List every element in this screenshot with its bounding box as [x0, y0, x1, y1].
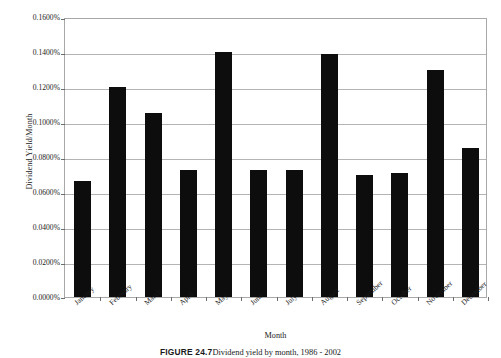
bar: [321, 54, 338, 297]
bar: [109, 87, 126, 297]
x-axis-title: Month: [64, 331, 487, 340]
bar: [462, 148, 479, 297]
bar: [145, 113, 162, 297]
bar: [391, 173, 408, 297]
figure-caption-label: FIGURE 24.7: [160, 347, 212, 357]
bar: [286, 170, 303, 297]
bar: [180, 170, 197, 297]
bar: [250, 170, 267, 297]
y-tick-label: 0.1400%: [12, 49, 60, 57]
x-tick-mark: [488, 297, 489, 301]
y-tick-label: 0.0800%: [12, 154, 60, 162]
y-tick-label: 0.1600%: [12, 14, 60, 22]
bar: [215, 52, 232, 297]
y-tick-label: 0.0600%: [12, 189, 60, 197]
y-tick-label: 0.0400%: [12, 224, 60, 232]
y-tick-label: 0.0200%: [12, 259, 60, 267]
y-axis-tick-labels: 0.1600%0.1400%0.1200%0.1000%0.0800%0.060…: [12, 0, 60, 356]
bar-series: [65, 19, 486, 297]
figure-caption-text: Dividend yield by month, 1986 - 2002: [212, 348, 341, 357]
bar: [74, 181, 91, 297]
bar: [356, 175, 373, 298]
figure-caption: FIGURE 24.7Dividend yield by month, 1986…: [0, 347, 501, 358]
plot-area: [64, 18, 487, 298]
y-tick-label: 0.0000%: [12, 294, 60, 302]
y-tick-label: 0.1200%: [12, 84, 60, 92]
y-tick-label: 0.1000%: [12, 119, 60, 127]
bar: [427, 70, 444, 298]
